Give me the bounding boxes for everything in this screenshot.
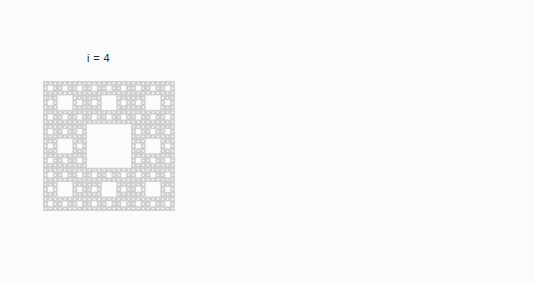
carpet-hole (157, 87, 159, 89)
carpet-hole (118, 97, 120, 99)
carpet-hole (98, 208, 100, 210)
carpet-hole (89, 203, 91, 205)
carpet-hole (123, 121, 125, 123)
carpet-hole (147, 136, 149, 138)
carpet-hole (84, 121, 86, 123)
carpet-hole (142, 92, 144, 94)
carpet-hole (74, 169, 76, 171)
carpet-hole (50, 83, 52, 85)
carpet-hole (84, 102, 86, 104)
carpet-hole (50, 136, 52, 138)
carpet-hole (103, 169, 105, 171)
carpet-hole (142, 150, 144, 152)
carpet-hole (69, 136, 71, 138)
carpet-hole (84, 140, 86, 142)
carpet-hole (172, 116, 174, 118)
carpet-hole (142, 97, 144, 99)
carpet-hole (74, 155, 76, 157)
carpet-hole (74, 189, 76, 191)
carpet-hole (54, 136, 56, 138)
carpet-hole (45, 83, 47, 85)
carpet-hole (89, 189, 91, 191)
carpet-hole (79, 179, 81, 181)
carpet-hole (123, 193, 125, 195)
carpet-hole (128, 87, 130, 89)
carpet-hole (69, 174, 71, 176)
carpet-hole (59, 203, 61, 205)
carpet-hole (167, 150, 169, 152)
carpet-hole (128, 116, 130, 118)
carpet-hole (142, 164, 144, 166)
carpet-hole (172, 136, 174, 138)
carpet-hole (162, 155, 164, 157)
carpet-hole (77, 158, 82, 163)
carpet-hole (98, 97, 100, 99)
carpet-hole (45, 87, 47, 89)
carpet-hole (84, 111, 86, 113)
carpet-hole (45, 107, 47, 109)
carpet-hole (157, 198, 159, 200)
carpet-hole (138, 140, 140, 142)
carpet-hole (59, 179, 61, 181)
carpet-hole (133, 189, 135, 191)
carpet-hole (118, 189, 120, 191)
carpet-hole (48, 115, 53, 120)
carpet-hole (142, 116, 144, 118)
carpet-hole (165, 144, 170, 149)
carpet-hole (162, 140, 164, 142)
carpet-hole (54, 83, 56, 85)
carpet-hole (172, 97, 174, 99)
carpet-hole (59, 111, 61, 113)
carpet-hole (118, 92, 120, 94)
carpet-hole (162, 107, 164, 109)
carpet-hole (142, 83, 144, 85)
carpet-hole (59, 169, 61, 171)
carpet-hole (74, 111, 76, 113)
carpet-hole (74, 92, 76, 94)
carpet-hole (138, 136, 140, 138)
carpet-hole (157, 160, 159, 162)
carpet-hole (138, 97, 140, 99)
carpet-hole (45, 208, 47, 210)
carpet-hole (79, 97, 81, 99)
carpet-hole (157, 116, 159, 118)
carpet-hole (147, 83, 149, 85)
carpet-hole (136, 187, 141, 192)
carpet-hole (94, 92, 96, 94)
carpet-hole (89, 102, 91, 104)
carpet-hole (87, 124, 131, 167)
carpet-hole (128, 83, 130, 85)
carpet-hole (172, 121, 174, 123)
carpet-hole (45, 111, 47, 113)
carpet-hole (133, 92, 135, 94)
carpet-hole (147, 116, 149, 118)
carpet-hole (89, 179, 91, 181)
carpet-hole (63, 201, 68, 206)
carpet-hole (45, 160, 47, 162)
carpet-hole (133, 136, 135, 138)
carpet-hole (147, 155, 149, 157)
carpet-hole (118, 107, 120, 109)
carpet-hole (54, 174, 56, 176)
carpet-hole (54, 189, 56, 191)
carpet-hole (113, 111, 115, 113)
carpet-hole (121, 187, 126, 192)
carpet-hole (64, 126, 66, 128)
carpet-hole (108, 198, 110, 200)
carpet-hole (74, 126, 76, 128)
carpet-hole (50, 179, 52, 181)
carpet-hole (54, 193, 56, 195)
carpet-hole (142, 160, 144, 162)
carpet-hole (98, 169, 100, 171)
carpet-hole (142, 184, 144, 186)
carpet-hole (138, 111, 140, 113)
carpet-hole (84, 179, 86, 181)
carpet-hole (157, 208, 159, 210)
carpet-hole (74, 184, 76, 186)
carpet-hole (50, 140, 52, 142)
carpet-hole (54, 111, 56, 113)
carpet-hole (89, 121, 91, 123)
carpet-hole (74, 121, 76, 123)
carpet-hole (54, 131, 56, 133)
carpet-hole (138, 198, 140, 200)
